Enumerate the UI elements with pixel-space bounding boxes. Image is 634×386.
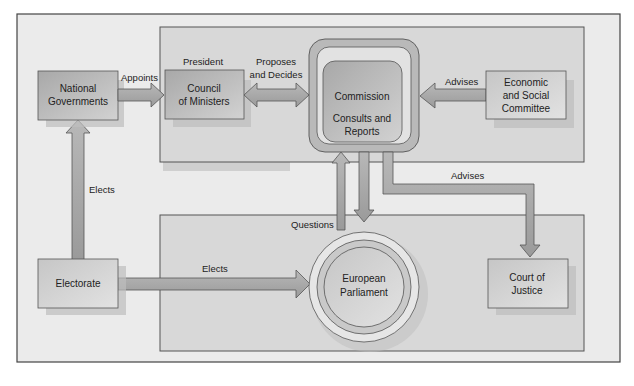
esc-advises-label: Advises: [445, 76, 479, 87]
court-label-1: Court of: [509, 272, 545, 283]
appoints-label: Appoints: [121, 72, 158, 83]
electorate-label: Electorate: [55, 278, 100, 289]
national-governments-label-1: National: [60, 83, 97, 94]
questions-label: Questions: [291, 219, 334, 230]
council-label-1: Council: [187, 83, 220, 94]
president-label: President: [183, 56, 223, 67]
proposes-label-1: Proposes: [256, 56, 296, 67]
elects-governments-label: Elects: [89, 184, 115, 195]
court-advises-label: Advises: [451, 170, 485, 181]
commission-label-2: Reports: [344, 126, 379, 137]
national-governments-label-2: Governments: [48, 96, 108, 107]
proposes-label-2: and Decides: [250, 69, 303, 80]
commission-title: Commission: [334, 91, 389, 102]
esc-label-3: Committee: [502, 103, 551, 114]
court-label-2: Justice: [511, 285, 543, 296]
esc-label-1: Economic: [504, 77, 548, 88]
commission-label-1: Consults and: [333, 113, 391, 124]
elects-parliament-label: Elects: [202, 263, 228, 274]
court-of-justice-box: [488, 259, 568, 308]
esc-label-2: and Social: [503, 90, 550, 101]
council-label-2: of Ministers: [178, 96, 229, 107]
eu-institutions-diagram: Elects Elects National Governments Appoi…: [0, 0, 634, 386]
council-of-ministers-box: [165, 70, 244, 119]
parliament-label-1: European: [342, 273, 385, 284]
parliament-label-2: Parliament: [340, 287, 388, 298]
